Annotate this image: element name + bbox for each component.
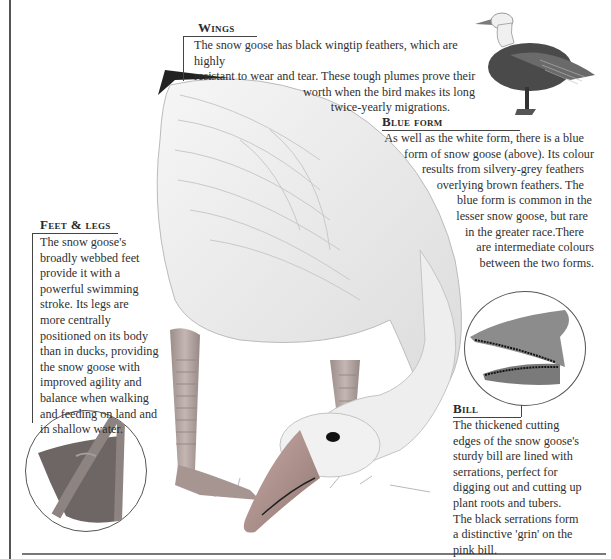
bill-line: sturdy bill are lined with	[453, 449, 608, 465]
feet-legs-line: improved agility and	[40, 375, 155, 391]
blue-form-line: As well as the white form, there is a bl…	[380, 131, 596, 147]
wings-heading: Wings	[198, 21, 235, 35]
wings-leader-line	[183, 36, 184, 81]
feet-legs-line: stroke. Its legs are	[40, 297, 155, 313]
blue-form-line: are intermediate colours	[380, 240, 596, 256]
wings-text: The snow goose has black wingtip feather…	[194, 38, 484, 116]
feet-legs-heading-rule	[32, 233, 118, 234]
bill-line: plant roots and tubers.	[453, 496, 608, 512]
wings-line: worth when the bird makes its long	[194, 85, 475, 101]
page-left-border	[9, 0, 11, 559]
wings-heading-rule	[183, 36, 257, 37]
blue-form-line: form of snow goose (above). Its colour	[380, 147, 596, 163]
wings-line: The snow goose has black wingtip feather…	[194, 38, 484, 69]
blue-form-text: As well as the white form, there is a bl…	[380, 131, 596, 271]
feet-legs-line: and feeding on land and	[40, 407, 155, 423]
feet-legs-line: than in ducks, providing	[40, 344, 155, 360]
blue-form-line: overlying brown feathers. The	[380, 178, 596, 194]
bill-line: a distinctive 'grin' on the	[453, 527, 608, 543]
feet-legs-line: provide it with a	[40, 266, 155, 282]
serrated-bill-icon	[465, 292, 585, 405]
feet-legs-line: positioned on its body	[40, 329, 155, 345]
bill-heading: Bill	[453, 402, 478, 416]
blue-form-line: blue form is common in the	[380, 193, 596, 209]
feet-legs-line: balance when walking	[40, 391, 155, 407]
bill-leader-line	[521, 405, 522, 417]
bill-line: digging out and cutting up	[453, 480, 608, 496]
bill-line: serrations, perfect for	[453, 465, 608, 481]
blue-form-line: in the greater race.There	[380, 225, 596, 241]
blue-form-line: between the two forms.	[380, 256, 596, 272]
feet-legs-line: powerful swimming	[40, 282, 155, 298]
feet-legs-leader-line	[32, 233, 33, 423]
blue-form-line: results from silvery-grey feathers	[380, 162, 596, 178]
blue-form-line: lesser snow goose, but rare	[380, 209, 596, 225]
bill-line: edges of the snow goose's	[453, 434, 608, 450]
feet-legs-text: The snow goose's broadly webbed feet pro…	[40, 235, 155, 438]
feet-legs-line: broadly webbed feet	[40, 251, 155, 267]
feet-legs-line: more centrally	[40, 313, 155, 329]
bill-line: pink bill.	[453, 543, 608, 559]
bill-line: The black serrations form	[453, 512, 608, 528]
bill-text: The thickened cutting edges of the snow …	[453, 418, 608, 558]
blue-form-goose-illustration	[470, 5, 605, 120]
feet-legs-line: the snow goose with	[40, 360, 155, 376]
blue-form-heading: Blue form	[382, 115, 443, 129]
bill-inset-circle	[464, 291, 586, 406]
bill-line: The thickened cutting	[453, 418, 608, 434]
wings-line: resistant to wear and tear. These tough …	[194, 69, 484, 85]
feet-legs-heading: Feet & legs	[40, 218, 111, 232]
feet-legs-line: in shallow water.	[40, 422, 155, 438]
feet-legs-line: The snow goose's	[40, 235, 155, 251]
